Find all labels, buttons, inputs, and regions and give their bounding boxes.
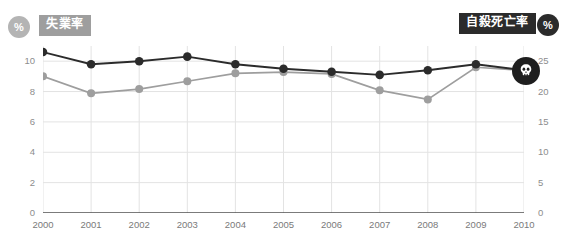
legend-label-unemployment: 失業率 bbox=[39, 15, 91, 36]
skull-icon bbox=[512, 57, 540, 85]
x-tick: 2008 bbox=[417, 220, 438, 230]
plot-area bbox=[43, 46, 524, 213]
skull-glyph bbox=[518, 63, 534, 79]
data-point bbox=[375, 71, 384, 80]
y-tick-right: 0 bbox=[538, 208, 564, 218]
data-point bbox=[43, 72, 47, 80]
y-tick-right: 20 bbox=[538, 87, 564, 97]
data-point bbox=[376, 86, 384, 94]
y-tick-right: 15 bbox=[538, 117, 564, 127]
y-axis-right: 0510152025 bbox=[538, 0, 568, 242]
y-tick-right: 5 bbox=[538, 178, 564, 188]
data-point bbox=[183, 52, 192, 61]
data-point bbox=[424, 95, 432, 103]
data-point bbox=[43, 48, 47, 57]
y-tick-left: 2 bbox=[9, 178, 35, 188]
x-tick: 2000 bbox=[32, 220, 53, 230]
data-point bbox=[135, 57, 144, 66]
x-tick: 2009 bbox=[465, 220, 486, 230]
x-tick: 2007 bbox=[369, 220, 390, 230]
y-tick-left: 6 bbox=[9, 117, 35, 127]
data-point bbox=[424, 66, 433, 75]
data-point bbox=[183, 77, 191, 85]
data-point bbox=[87, 60, 96, 69]
x-tick: 2002 bbox=[129, 220, 150, 230]
y-tick-left: 10 bbox=[9, 56, 35, 66]
x-tick: 2006 bbox=[321, 220, 342, 230]
y-axis-left: 0246810 bbox=[5, 0, 35, 242]
chart-svg bbox=[43, 46, 524, 213]
y-tick-left: 4 bbox=[9, 147, 35, 157]
legend-label-suicide: 自殺死亡率 bbox=[459, 13, 536, 34]
x-tick: 2005 bbox=[273, 220, 294, 230]
data-point bbox=[231, 69, 239, 77]
data-point bbox=[472, 60, 481, 69]
data-point bbox=[279, 64, 288, 73]
data-point bbox=[87, 89, 95, 97]
y-tick-right: 25 bbox=[538, 56, 564, 66]
y-tick-left: 0 bbox=[9, 208, 35, 218]
x-axis: 2000200120022003200420052006200720082009… bbox=[0, 220, 570, 236]
x-tick: 2003 bbox=[177, 220, 198, 230]
data-point bbox=[231, 60, 240, 69]
data-point bbox=[327, 68, 336, 77]
y-tick-right: 10 bbox=[538, 147, 564, 157]
chart-container: % 失業率 自殺死亡率 % 0246810 0510152025 200 bbox=[0, 0, 570, 242]
x-tick: 2004 bbox=[225, 220, 246, 230]
data-point bbox=[135, 85, 143, 93]
x-tick: 2001 bbox=[81, 220, 102, 230]
y-tick-left: 8 bbox=[9, 87, 35, 97]
x-tick: 2010 bbox=[513, 220, 534, 230]
